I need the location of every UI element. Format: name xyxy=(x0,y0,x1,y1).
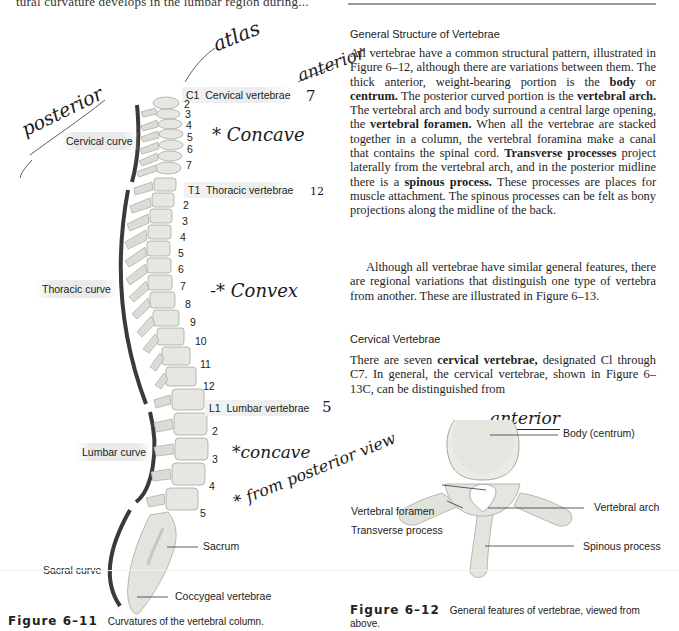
figure-6-11-caption: Figure 6–11Curvatures of the vertebral c… xyxy=(8,614,264,628)
vertebra-number: 5 xyxy=(178,247,184,259)
cervical-vertebrae-name: Cervical vertebrae xyxy=(205,89,290,101)
section-heading-cervical: Cervical Vertebrae xyxy=(350,333,656,345)
vertebra-number: 12 xyxy=(203,380,215,392)
l1-label: L1 xyxy=(209,402,221,414)
spinous-process-label: Spinous process xyxy=(583,540,661,552)
figure-6-11-label: Figure 6–11 xyxy=(8,614,98,628)
cervical-vertebrae-label: C1 Cervical vertebrae xyxy=(182,87,294,103)
handwritten-concave-lumbar: *concave xyxy=(232,442,311,462)
lumbar-vertebrae-name: Lumbar vertebrae xyxy=(227,402,310,414)
vertebral-arch-label: Vertebral arch xyxy=(594,501,659,513)
vertebra-number: 3 xyxy=(182,215,188,227)
vertebra-number: 9 xyxy=(190,316,196,328)
sacrum-label: Sacrum xyxy=(203,540,239,552)
vertebra-number: 4 xyxy=(186,119,192,131)
thoracic-curve-label: Thoracic curve xyxy=(36,280,117,298)
vertebra-number: 2 xyxy=(183,199,189,211)
vertebra-number: 4 xyxy=(180,231,186,243)
handwritten-cervical-count: 7 xyxy=(306,87,316,105)
vertebra-number: 11 xyxy=(200,358,211,370)
header-rule xyxy=(348,3,656,5)
vertebra-number: 8 xyxy=(185,298,191,310)
cervical-curve-label: Cervical curve xyxy=(60,132,139,150)
lumbar-curve-label: Lumbar curve xyxy=(76,443,152,461)
vertebra-number: 10 xyxy=(195,335,207,347)
vertebral-foramen-label: Vertebral foramen xyxy=(351,505,434,517)
vertebra-number: 5 xyxy=(187,131,193,143)
scan-fold-line xyxy=(0,570,679,571)
thoracic-vertebrae-name: Thoracic vertebrae xyxy=(206,184,294,196)
figure-6-12-caption: Figure 6–12General features of vertebrae… xyxy=(350,604,640,630)
coccygeal-vertebrae-label: Coccygeal vertebrae xyxy=(175,590,271,602)
figure-6-12-label: Figure 6–12 xyxy=(350,603,440,617)
vertebra-number: 7 xyxy=(180,280,186,292)
vertebra-number: 6 xyxy=(187,143,193,155)
section-heading-general-structure: General Structure of Vertebrae xyxy=(350,28,656,40)
paragraph-regional-variations: Although all vertebrae have similar gene… xyxy=(350,260,656,303)
thoracic-vertebrae-label: T1 Thoracic vertebrae xyxy=(184,182,297,198)
lumbar-vertebrae-label: L1 Lumbar vertebrae xyxy=(205,400,313,416)
handwritten-thoracic-count: 12 xyxy=(310,185,324,198)
handwritten-concave-cervical: * Concave xyxy=(212,124,305,145)
paragraph-general-structure: All vertebrae have a common structural p… xyxy=(350,46,656,218)
paragraph-cervical: There are seven cervical vertebrae, desi… xyxy=(350,353,656,396)
vertebra-number: 2 xyxy=(212,425,218,437)
handwritten-lumbar-count: 5 xyxy=(322,398,332,416)
vertebra-number: 4 xyxy=(209,480,215,492)
vertebra-number: 3 xyxy=(212,453,218,465)
handwritten-convex-thoracic: -* Convex xyxy=(210,280,298,301)
vertebra-number: 6 xyxy=(178,263,184,275)
figure-6-11-text: Curvatures of the vertebral column. xyxy=(108,616,264,627)
vertebra-number: 7 xyxy=(186,159,192,171)
vertebra-number: 5 xyxy=(200,507,206,519)
transverse-process-label: Transverse process xyxy=(351,524,443,536)
sacrum-shape xyxy=(128,512,176,614)
body-centrum-label: Body (centrum) xyxy=(563,427,635,439)
t1-label: T1 xyxy=(188,184,200,196)
sacral-curve-bar xyxy=(110,510,130,606)
